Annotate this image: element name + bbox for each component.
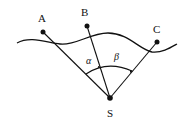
label-B: B (81, 6, 88, 18)
geometry-diagram: A B C S α β (0, 0, 189, 123)
label-alpha: α (86, 55, 92, 66)
label-A: A (38, 12, 46, 24)
angle-arc (86, 66, 132, 74)
point-B-dot (85, 24, 90, 29)
point-S-dot (107, 95, 113, 101)
boundary-curve (17, 33, 177, 52)
label-beta: β (113, 51, 119, 62)
label-C: C (153, 23, 160, 35)
label-S: S (107, 107, 113, 119)
point-C-dot (155, 40, 160, 45)
diagram-canvas: A B C S α β (0, 0, 189, 123)
point-A-dot (41, 30, 46, 35)
